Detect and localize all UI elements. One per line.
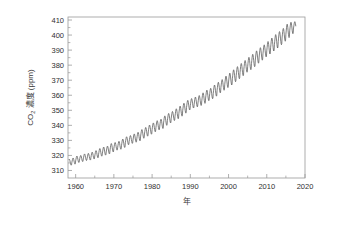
x-axis-title-text: 年 xyxy=(183,196,191,206)
x-tick-label: 2010 xyxy=(258,182,275,191)
y-tick-label: 380 xyxy=(51,61,64,70)
x-tick-label: 2000 xyxy=(220,182,237,191)
y-axis-tick-labels: 310320330340350360370380390400410 xyxy=(51,16,64,175)
y-tick-label: 340 xyxy=(51,121,64,130)
y-axis-title: CO2 濃度 (ppm) xyxy=(25,69,36,126)
x-tick-label: 1990 xyxy=(182,182,199,191)
co2-concentration-chart: 1960197019801990200020102020 31032033034… xyxy=(0,0,338,228)
chart-canvas: 1960197019801990200020102020 31032033034… xyxy=(0,0,338,228)
y-tick-label: 350 xyxy=(51,106,64,115)
y-tick-label: 330 xyxy=(51,136,64,145)
x-tick-label: 1980 xyxy=(144,182,161,191)
y-tick-label: 390 xyxy=(51,46,64,55)
y-tick-label: 410 xyxy=(51,16,64,25)
x-tick-label: 1960 xyxy=(67,182,84,191)
y-tick-label: 310 xyxy=(51,166,64,175)
x-tick-label: 1970 xyxy=(106,182,123,191)
y-tick-label: 370 xyxy=(51,76,64,85)
x-axis-title: 年 xyxy=(183,196,191,206)
y-tick-label: 320 xyxy=(51,151,64,160)
y-axis-title-text: CO2 濃度 (ppm) xyxy=(25,69,36,126)
y-tick-label: 400 xyxy=(51,31,64,40)
x-tick-label: 2020 xyxy=(297,182,314,191)
y-tick-label: 360 xyxy=(51,91,64,100)
